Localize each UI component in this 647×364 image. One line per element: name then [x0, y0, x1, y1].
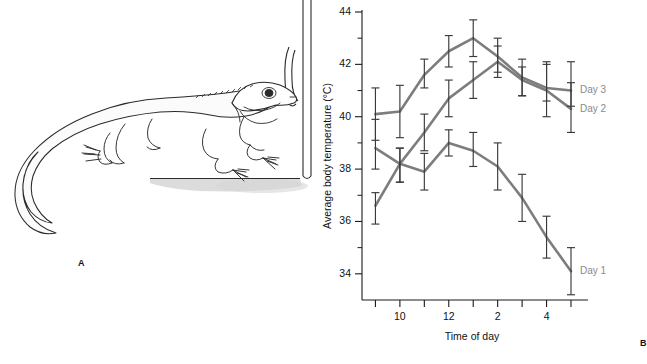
panel-b-chart: Average body temperature (°C) 3436384042… [318, 0, 644, 364]
y-tick-label: 44 [339, 5, 351, 17]
lizard-eye [262, 88, 276, 99]
y-tick-label: 38 [339, 162, 351, 174]
panel-label-a: A [78, 258, 85, 268]
line-chart: Average body temperature (°C) 3436384042… [318, 0, 644, 346]
y-tick-label: 36 [339, 214, 351, 226]
y-tick-label: 40 [339, 110, 351, 122]
series-label: Day 1 [580, 265, 607, 276]
y-axis-title-group: Average body temperature (°C) [321, 83, 333, 229]
x-axis: 101224 [362, 300, 588, 322]
y-tick-label: 34 [339, 267, 351, 279]
x-axis-title-group: Time of day [445, 330, 500, 342]
panel-a-illustration: A [0, 0, 330, 364]
y-axis: 343638404244 [339, 5, 362, 300]
lizard-outline-details [82, 117, 279, 181]
y-axis-title: Average body temperature (°C) [321, 83, 333, 229]
x-tick-label: 12 [443, 310, 455, 322]
x-tick-label: 10 [394, 310, 406, 322]
x-tick-label: 2 [495, 310, 501, 322]
errorbars-group [371, 20, 575, 295]
y-tick-label: 42 [339, 57, 351, 69]
series-label: Day 2 [580, 103, 607, 114]
x-tick-label: 4 [544, 310, 550, 322]
series-label: Day 3 [580, 84, 607, 95]
panel-label-b: B [640, 338, 647, 348]
x-axis-title: Time of day [445, 330, 500, 342]
series-labels-group: Day 3Day 2Day 1 [580, 84, 607, 276]
ground-shadow [150, 179, 308, 193]
